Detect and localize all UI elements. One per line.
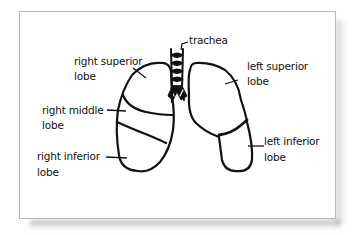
label-left-superior: left superior bbox=[247, 60, 309, 72]
right-lung bbox=[117, 63, 174, 171]
label-left-inferior-lobe: lobe bbox=[264, 151, 286, 163]
lung-diagram: trachea right superior lobe right middle… bbox=[0, 0, 357, 235]
label-right-inferior: right inferior bbox=[37, 150, 101, 162]
label-left-inferior: left inferior bbox=[264, 135, 320, 147]
left-lung bbox=[189, 63, 252, 171]
label-right-middle: right middle bbox=[42, 104, 103, 116]
label-right-inferior-lobe: lobe bbox=[37, 166, 59, 178]
leader-right-inferior bbox=[106, 157, 127, 158]
leader-right-middle bbox=[107, 110, 126, 111]
label-left-superior-lobe: lobe bbox=[247, 75, 269, 87]
label-trachea: trachea bbox=[189, 34, 228, 46]
label-right-superior-lobe: lobe bbox=[74, 70, 96, 82]
label-right-middle-lobe: lobe bbox=[42, 119, 64, 131]
label-right-superior: right superior bbox=[74, 55, 143, 67]
